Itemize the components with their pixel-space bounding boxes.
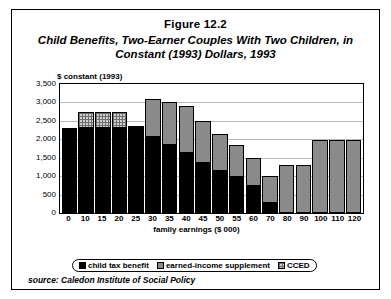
bar-segment xyxy=(296,165,312,213)
legend-item: CCED xyxy=(278,261,310,270)
y-axis-tick-label: 0 xyxy=(52,208,56,217)
bar-column xyxy=(112,112,128,213)
bar-column xyxy=(162,102,178,213)
bar-segment xyxy=(145,99,161,138)
source-note: source: Caledon Institute of Social Poli… xyxy=(28,275,195,285)
black-solid-swatch xyxy=(79,262,86,269)
figure-title-block: Figure 12.2 Child Benefits, Two-Earner C… xyxy=(12,18,379,61)
bar-column xyxy=(179,106,195,213)
y-axis-tick-label: 2,000 xyxy=(36,134,56,143)
bar-column xyxy=(346,140,362,213)
figure-frame: Figure 12.2 Child Benefits, Two-Earner C… xyxy=(11,9,380,290)
legend-item-label: CCED xyxy=(287,261,310,270)
y-axis-title: $ constant (1993) xyxy=(57,72,122,81)
bar-segment xyxy=(179,106,195,153)
bar-segment xyxy=(145,137,161,213)
figure-number: Figure 12.2 xyxy=(12,18,379,30)
bar-segment xyxy=(229,177,245,213)
bar-segment xyxy=(212,134,228,171)
bar-column xyxy=(128,126,144,213)
bar-segment xyxy=(62,128,78,213)
gray-checkered-swatch xyxy=(278,262,285,269)
x-axis-title: family earnings ($ 000) xyxy=(12,225,381,234)
chart-area: $ constant (1993) 05001,0001,5002,0002,5… xyxy=(12,72,381,252)
bar-segment xyxy=(78,128,94,213)
legend-item: earned-income supplement xyxy=(157,261,270,270)
bar-segment xyxy=(112,128,128,213)
y-axis-tick-label: 3,500 xyxy=(36,79,56,88)
bar-column xyxy=(212,134,228,213)
bar-segment xyxy=(162,145,178,213)
bar-column xyxy=(296,165,312,213)
bar-column xyxy=(312,140,328,213)
bar-column xyxy=(78,112,94,213)
bar-segment xyxy=(246,186,262,213)
y-axis-tick-label: 1,000 xyxy=(36,171,56,180)
figure-caption: Child Benefits, Two-Earner Couples With … xyxy=(12,33,379,61)
bar-segment xyxy=(262,203,278,213)
plot-area xyxy=(59,83,364,214)
bar-segment xyxy=(95,112,111,129)
bar-segment xyxy=(229,145,245,177)
bar-segment xyxy=(195,163,211,213)
bar-segment xyxy=(262,176,278,203)
bar-column xyxy=(62,128,78,213)
bar-column xyxy=(145,99,161,213)
bar-segment xyxy=(179,153,195,213)
legend-item-label: child tax benefit xyxy=(88,261,149,270)
y-axis-tick-label: 1,500 xyxy=(36,152,56,161)
chart-legend: child tax benefitearned-income supplemen… xyxy=(72,259,317,272)
bar-segment xyxy=(246,158,262,186)
bar-segment xyxy=(95,128,111,213)
legend-item: child tax benefit xyxy=(79,261,149,270)
bar-column xyxy=(246,158,262,213)
bar-column xyxy=(229,145,245,213)
bar-segment xyxy=(112,112,128,129)
bar-series-group xyxy=(60,84,363,213)
bar-segment xyxy=(279,165,295,213)
gray-dotted-swatch xyxy=(157,262,164,269)
legend-item-label: earned-income supplement xyxy=(166,261,270,270)
bar-segment xyxy=(312,140,328,213)
bar-segment xyxy=(212,171,228,213)
bar-column xyxy=(195,121,211,213)
bar-segment xyxy=(195,121,211,163)
bar-column xyxy=(95,112,111,213)
bar-segment xyxy=(329,140,345,213)
bar-segment xyxy=(162,102,178,144)
bar-column xyxy=(262,176,278,213)
bar-segment xyxy=(78,112,94,129)
y-axis-tick-label: 500 xyxy=(43,189,56,198)
bar-segment xyxy=(128,128,144,213)
y-axis-tick-label: 2,500 xyxy=(36,115,56,124)
y-axis-ticks: 05001,0001,5002,0002,5003,0003,500 xyxy=(12,83,56,212)
bar-column xyxy=(279,165,295,213)
y-axis-tick-label: 3,000 xyxy=(36,97,56,106)
bar-segment xyxy=(346,140,362,213)
bar-column xyxy=(329,140,345,213)
